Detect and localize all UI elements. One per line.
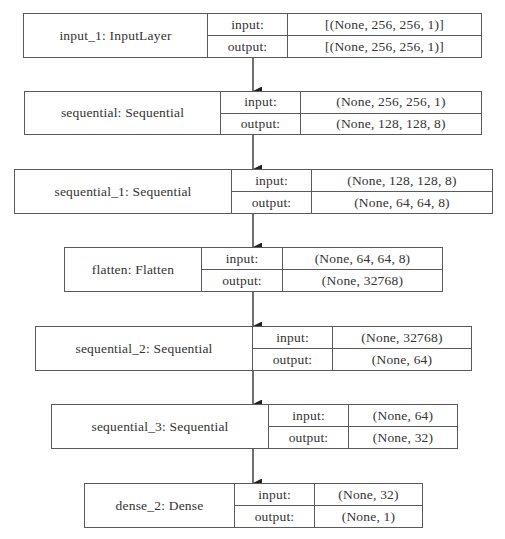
layer-node-flatten: flatten: Flatten input: output: (None, 6… xyxy=(64,247,443,292)
output-shape: (None, 64) xyxy=(333,349,471,370)
layer-name: input_1: InputLayer xyxy=(24,14,208,57)
output-shape: (None, 32768) xyxy=(283,270,442,291)
input-label: input: xyxy=(221,92,300,114)
layer-name: flatten: Flatten xyxy=(65,248,202,291)
output-shape: (None, 1) xyxy=(315,506,422,527)
input-shape: (None, 32) xyxy=(315,484,422,506)
output-label: output: xyxy=(221,114,300,135)
input-label: input: xyxy=(235,484,314,506)
output-shape: (None, 128, 128, 8) xyxy=(301,114,481,135)
layer-name: sequential_2: Sequential xyxy=(36,327,253,370)
input-shape: (None, 32768) xyxy=(333,327,471,349)
layer-name: dense_2: Dense xyxy=(85,484,235,527)
layer-node-sequential_3: sequential_3: Sequential input: output: … xyxy=(51,404,458,449)
output-label: output: xyxy=(269,427,348,448)
input-label: input: xyxy=(253,327,332,349)
input-label: input: xyxy=(269,405,348,427)
output-label: output: xyxy=(202,270,282,291)
io-values: (None, 32) (None, 1) xyxy=(315,484,422,527)
input-shape: (None, 64) xyxy=(349,405,457,427)
io-values: (None, 32768) (None, 64) xyxy=(333,327,471,370)
layer-node-sequential_1: sequential_1: Sequential input: output: … xyxy=(14,169,493,214)
layer-node-sequential: sequential: Sequential input: output: (N… xyxy=(24,91,482,135)
input-shape: (None, 64, 64, 8) xyxy=(283,248,442,270)
output-label: output: xyxy=(208,36,287,57)
output-shape: [(None, 256, 256, 1)] xyxy=(288,36,481,57)
input-shape: (None, 128, 128, 8) xyxy=(312,170,492,192)
output-shape: (None, 64, 64, 8) xyxy=(312,192,492,213)
layer-name: sequential_1: Sequential xyxy=(15,170,232,213)
output-label: output: xyxy=(235,506,314,527)
output-shape: (None, 32) xyxy=(349,427,457,448)
output-label: output: xyxy=(253,349,332,370)
io-values: (None, 64, 64, 8) (None, 32768) xyxy=(283,248,442,291)
io-labels: input: output: xyxy=(202,248,283,291)
output-label: output: xyxy=(232,192,311,213)
io-labels: input: output: xyxy=(235,484,315,527)
io-values: (None, 256, 256, 1) (None, 128, 128, 8) xyxy=(301,92,481,134)
io-labels: input: output: xyxy=(208,14,288,57)
input-label: input: xyxy=(202,248,282,270)
input-label: input: xyxy=(232,170,311,192)
io-values: [(None, 256, 256, 1)] [(None, 256, 256, … xyxy=(288,14,481,57)
io-values: (None, 128, 128, 8) (None, 64, 64, 8) xyxy=(312,170,492,213)
layer-node-sequential_2: sequential_2: Sequential input: output: … xyxy=(35,326,472,371)
input-shape: (None, 256, 256, 1) xyxy=(301,92,481,114)
io-labels: input: output: xyxy=(269,405,349,448)
io-labels: input: output: xyxy=(232,170,312,213)
layer-node-dense_2: dense_2: Dense input: output: (None, 32)… xyxy=(84,483,423,528)
layer-name: sequential_3: Sequential xyxy=(52,405,269,448)
input-shape: [(None, 256, 256, 1)] xyxy=(288,14,481,36)
layer-name: sequential: Sequential xyxy=(25,92,221,134)
layer-node-input_1: input_1: InputLayer input: output: [(Non… xyxy=(23,13,482,58)
io-labels: input: output: xyxy=(221,92,301,134)
input-label: input: xyxy=(208,14,287,36)
io-labels: input: output: xyxy=(253,327,333,370)
io-values: (None, 64) (None, 32) xyxy=(349,405,457,448)
